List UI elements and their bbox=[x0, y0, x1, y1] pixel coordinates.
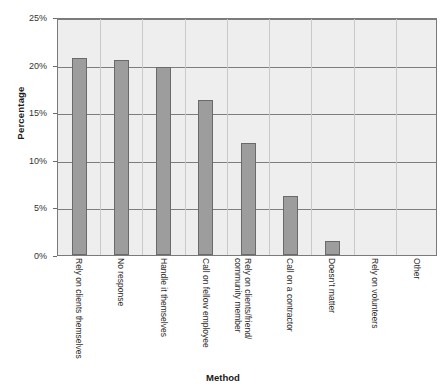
y-axis-tick-label: 20% bbox=[1, 61, 47, 71]
bar bbox=[156, 67, 171, 255]
x-axis-tick-labels: Rely on clients themselvesNo responseHan… bbox=[57, 258, 437, 363]
x-axis-tick-label: Rely on clients/friend/ community member bbox=[239, 258, 252, 362]
bar bbox=[283, 196, 298, 255]
y-axis-tick-label: 25% bbox=[1, 13, 47, 23]
bar bbox=[325, 241, 340, 255]
x-axis-tick-label: Rely on clients themselves bbox=[70, 258, 83, 362]
bar bbox=[241, 143, 256, 255]
x-axis-tick-label: Call on fellow employee bbox=[197, 258, 210, 362]
bar bbox=[72, 58, 87, 255]
plot-area bbox=[57, 18, 437, 256]
x-axis-tick-label: Handle it themselves bbox=[155, 258, 168, 362]
x-axis-tick-label: No response bbox=[112, 258, 125, 362]
x-axis-tick-label: Doesn't matter bbox=[323, 258, 336, 362]
y-axis-tick-mark bbox=[53, 256, 57, 257]
y-axis-tick-label: 5% bbox=[1, 203, 47, 213]
bar-chart: Percentage 0%5%10%15%20%25% Rely on clie… bbox=[0, 0, 446, 391]
y-axis-tick-label: 15% bbox=[1, 108, 47, 118]
y-axis-tick-label: 0% bbox=[1, 251, 47, 261]
y-axis-tick-label: 10% bbox=[1, 156, 47, 166]
x-axis-tick-label: Call on a contractor bbox=[281, 258, 294, 362]
bar-series bbox=[58, 19, 436, 255]
bar bbox=[114, 60, 129, 255]
y-axis-tick-labels: 0%5%10%15%20%25% bbox=[0, 0, 54, 391]
x-axis-tick-label: Rely on volunteers bbox=[366, 258, 379, 362]
bar bbox=[198, 100, 213, 255]
x-axis-title: Method bbox=[0, 372, 446, 383]
x-axis-tick-label: Other bbox=[408, 258, 421, 362]
